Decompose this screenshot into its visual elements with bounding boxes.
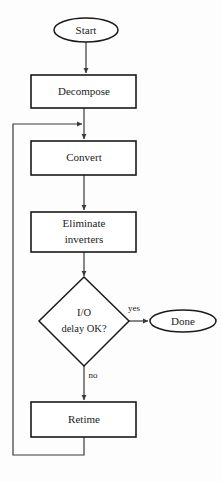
node-decision-io-delay: I/O delay OK? [39, 277, 129, 366]
node-convert: Convert [31, 141, 136, 175]
convert-label: Convert [66, 151, 101, 163]
node-retime: Retime [31, 402, 136, 437]
node-eliminate-inverters: Eliminate inverters [31, 212, 136, 252]
edge-label-no: no [89, 370, 99, 380]
edge-label-yes: yes [128, 303, 140, 313]
flowchart-diagram: Start Decompose Convert Eliminate invert… [0, 0, 221, 482]
eliminate-inverters-label-line1: Eliminate [63, 217, 106, 229]
flowchart-canvas: Start Decompose Convert Eliminate invert… [0, 0, 221, 482]
start-label: Start [76, 24, 97, 36]
eliminate-inverters-label-line2: inverters [65, 233, 103, 245]
decision-label-line1: I/O [77, 307, 91, 318]
node-done: Done [150, 310, 216, 332]
decision-label-line2: delay OK? [61, 323, 107, 334]
decision-diamond-shape [39, 277, 129, 366]
node-decompose: Decompose [31, 75, 136, 108]
retime-label: Retime [68, 413, 100, 425]
decompose-label: Decompose [58, 85, 110, 97]
node-start: Start [54, 18, 118, 42]
done-label: Done [171, 315, 195, 327]
